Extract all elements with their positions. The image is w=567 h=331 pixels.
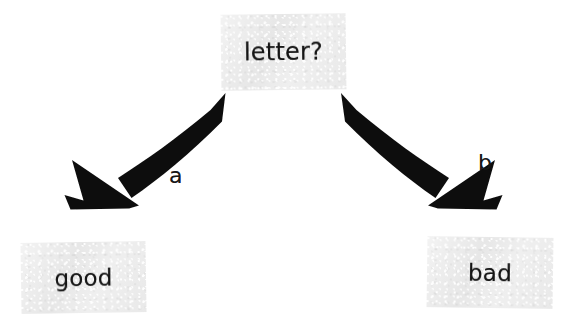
edge-label-b: b [478,152,492,174]
node-good[interactable]: good [20,241,146,314]
arrow-letter-to-good [65,93,226,210]
node-letter-label: letter? [244,38,323,67]
node-letter[interactable]: letter? [221,13,347,91]
node-good-label: good [54,264,113,291]
node-bad-label: bad [468,259,512,286]
edge-label-a: a [169,165,182,187]
node-bad[interactable]: bad [427,236,554,309]
